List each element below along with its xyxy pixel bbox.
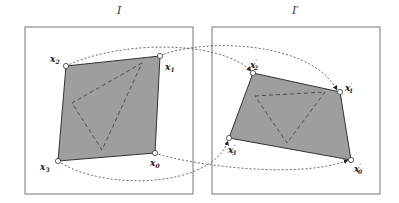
- label-x2-prime: x′2: [249, 58, 258, 71]
- vertex-x1: [157, 53, 162, 58]
- mapping-curve-x1: [160, 46, 337, 90]
- label-x3-prime: x′3: [227, 143, 236, 156]
- vertex-x2-prime: [250, 70, 255, 75]
- vertex-x0: [152, 150, 157, 155]
- label-x0-prime: x′0: [353, 162, 363, 175]
- label-x3: x3: [39, 162, 50, 173]
- left-quadrilateral: [58, 56, 160, 161]
- right-image-title: I′: [291, 4, 299, 17]
- left-image-title: I: [116, 4, 122, 17]
- label-x1-prime: x′1: [344, 81, 353, 94]
- mapping-curve-x0: [155, 153, 348, 170]
- vertex-x3: [55, 158, 60, 163]
- right-quadrilateral: [229, 73, 351, 160]
- homography-diagram: I I′ x2 x1 x0 x3 x′2 x′1 x′0 x′3: [0, 0, 399, 203]
- label-x2: x2: [49, 54, 60, 65]
- vertex-x0-prime: [348, 157, 353, 162]
- label-x1: x1: [164, 62, 175, 73]
- vertex-x1-prime: [337, 89, 342, 94]
- vertex-x2: [63, 63, 68, 68]
- label-x0: x0: [149, 158, 160, 169]
- vertex-x3-prime: [226, 135, 231, 140]
